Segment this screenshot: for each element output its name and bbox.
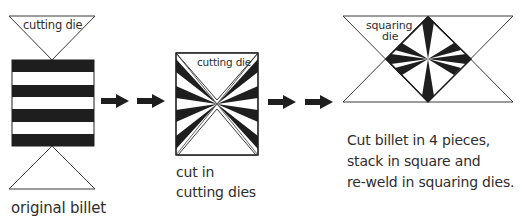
stage3-caption-line-2: stack in square and — [347, 151, 481, 172]
stage1-bottom-cutting-die — [9, 146, 95, 189]
stage3-caption-line-3: re-weld in squaring dies. — [347, 172, 514, 193]
stage1-die-label: cutting die — [23, 20, 82, 31]
stage3-caption-line-1: Cut billet in 4 pieces, — [347, 130, 490, 151]
stage1-original-billet — [9, 16, 95, 189]
stage1-billet-stripes — [12, 60, 94, 146]
arrow-right-icon — [268, 95, 296, 109]
stage3-die-label-line-2: die — [382, 31, 398, 42]
stage2-caption-line-1: cut in — [176, 162, 214, 183]
stage1-caption: original billet — [11, 198, 106, 219]
arrow-right-icon — [101, 94, 129, 108]
stage2-cut-billet — [176, 53, 258, 155]
stage2-caption-line-2: cutting dies — [176, 182, 256, 203]
arrow-right-icon — [305, 95, 333, 109]
arrow-right-icon — [137, 94, 165, 108]
stage2-die-label: cutting die — [197, 57, 251, 68]
